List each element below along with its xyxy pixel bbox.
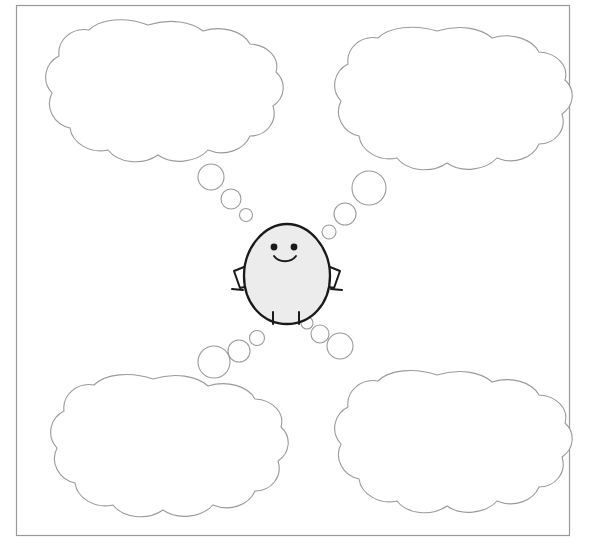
bubble-top-left-trail-dot-2 [221,189,241,209]
bubble-bottom-right-shape[interactable] [335,370,573,512]
mascot-right-eye-icon [291,244,298,251]
mascot-left-eye-icon [271,244,278,251]
bubble-bottom-left-shape[interactable] [51,374,289,516]
bubble-top-left-shape[interactable] [46,20,284,162]
bubble-bottom-right-group[interactable] [301,317,572,513]
bubble-top-right-shape[interactable] [335,27,573,170]
bubble-top-right-trail-dot-2 [334,203,356,225]
bubble-bottom-right-trail-dot-1 [327,333,353,359]
egg-mascot [232,224,342,324]
bubble-top-right-trail-dot-1 [352,171,386,205]
bubble-bottom-left-trail-dot-3 [250,331,265,346]
bubble-top-left-trail-dot-3 [240,209,253,222]
mascot-left-arm-line-icon [232,289,243,290]
bubble-top-left-trail-dot-1 [198,164,224,190]
bubble-top-left-group[interactable] [46,20,284,222]
bubble-bottom-left-trail-dot-2 [228,340,250,362]
mascot-body [244,224,330,324]
bubble-top-right-trail-dot-3 [322,225,336,239]
mascot-right-arm-line-icon [331,289,342,290]
bubble-bottom-left-group[interactable] [51,331,289,517]
scene-illustration [0,0,596,560]
worksheet-canvas [0,0,596,560]
bubble-bottom-left-trail-dot-1 [198,346,230,378]
bubble-top-right-group[interactable] [322,27,572,239]
bubble-bottom-right-trail-dot-2 [311,325,329,343]
